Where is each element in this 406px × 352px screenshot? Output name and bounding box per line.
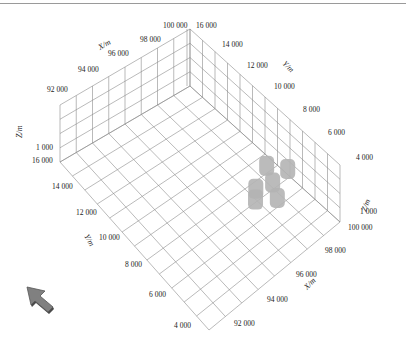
svg-text:92 000: 92 000 xyxy=(47,85,68,94)
svg-text:14 000: 14 000 xyxy=(52,182,73,191)
svg-text:12 000: 12 000 xyxy=(76,208,97,217)
svg-text:94 000: 94 000 xyxy=(78,65,99,74)
svg-text:4 000: 4 000 xyxy=(174,321,191,330)
grid xyxy=(60,29,340,330)
svg-text:14 000: 14 000 xyxy=(222,40,243,49)
svg-text:1 000: 1 000 xyxy=(36,143,53,152)
svg-text:Z/m: Z/m xyxy=(15,125,24,138)
svg-text:8 000: 8 000 xyxy=(303,105,320,114)
svg-text:16 000: 16 000 xyxy=(196,21,217,30)
svg-text:10 000: 10 000 xyxy=(274,82,295,91)
svg-text:6 000: 6 000 xyxy=(328,128,345,137)
3d-plot[interactable]: 92 00094 00096 00098 000100 000X/m16 000… xyxy=(0,0,406,352)
svg-text:94 000: 94 000 xyxy=(267,295,288,304)
svg-text:100 000: 100 000 xyxy=(163,21,188,30)
svg-text:Y/m: Y/m xyxy=(281,59,296,74)
ore-body xyxy=(248,190,263,210)
svg-text:8 000: 8 000 xyxy=(125,260,142,269)
ore-body xyxy=(280,159,295,179)
orientation-arrow-icon[interactable] xyxy=(27,287,54,314)
ore-bodies xyxy=(248,156,295,210)
svg-text:Y/m: Y/m xyxy=(82,233,96,248)
ore-body xyxy=(270,188,285,208)
svg-text:96 000: 96 000 xyxy=(296,270,317,279)
svg-text:10 000: 10 000 xyxy=(99,233,120,242)
svg-text:6 000: 6 000 xyxy=(149,290,166,299)
svg-text:16 000: 16 000 xyxy=(32,156,53,165)
svg-text:12 000: 12 000 xyxy=(247,61,268,70)
svg-text:1 000: 1 000 xyxy=(360,207,377,216)
svg-text:96 000: 96 000 xyxy=(108,49,129,58)
axis-labels: 92 00094 00096 00098 000100 000X/m16 000… xyxy=(15,21,377,330)
svg-text:4 000: 4 000 xyxy=(356,153,373,162)
svg-text:98 000: 98 000 xyxy=(140,35,161,44)
svg-text:100 000: 100 000 xyxy=(348,223,373,232)
svg-text:92 000: 92 000 xyxy=(234,319,255,328)
svg-text:98 000: 98 000 xyxy=(325,246,346,255)
